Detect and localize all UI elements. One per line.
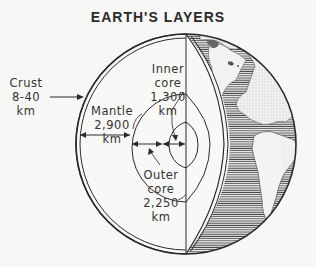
outer-core-label-unit: km: [142, 210, 180, 224]
inner-core-label-line2: core: [150, 76, 186, 90]
outer-core-label: Outer core 2,250 km: [142, 168, 180, 224]
outer-core-label-thickness: 2,250: [142, 196, 180, 210]
mantle-label-name: Mantle: [84, 104, 140, 118]
crust-label-thickness: 8-40: [4, 90, 48, 104]
outer-core-label-line1: Outer: [142, 168, 180, 182]
inner-core-label-unit: km: [150, 104, 186, 118]
outer-core-label-line2: core: [142, 182, 180, 196]
inner-core-label-line1: Inner: [150, 62, 186, 76]
crust-label: Crust 8-40 km: [4, 76, 48, 118]
inner-core-label: Inner core 1,300 km: [150, 62, 186, 118]
crust-label-unit: km: [4, 104, 48, 118]
mantle-label-thickness: 2,900 km: [84, 118, 140, 146]
earth-cross-section: [0, 0, 316, 267]
inner-core-label-thickness: 1,300: [150, 90, 186, 104]
mantle-label: Mantle 2,900 km: [84, 104, 140, 146]
crust-label-name: Crust: [4, 76, 48, 90]
